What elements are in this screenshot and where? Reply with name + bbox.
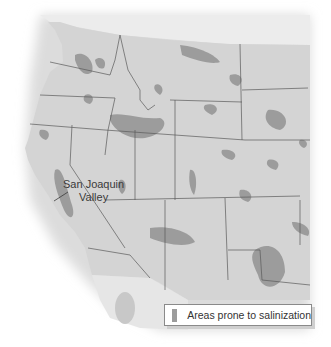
map-legend: Areas prone to salinization <box>164 304 312 326</box>
baja-region <box>115 292 135 324</box>
label-line-1: San Joaquin <box>63 178 124 191</box>
legend-label: Areas prone to salinization <box>187 309 311 321</box>
salinization-map <box>0 0 331 347</box>
legend-swatch-salinization <box>172 309 177 322</box>
san-joaquin-valley-label: San Joaquin Valley <box>63 178 124 204</box>
label-line-2: Valley <box>63 191 124 204</box>
